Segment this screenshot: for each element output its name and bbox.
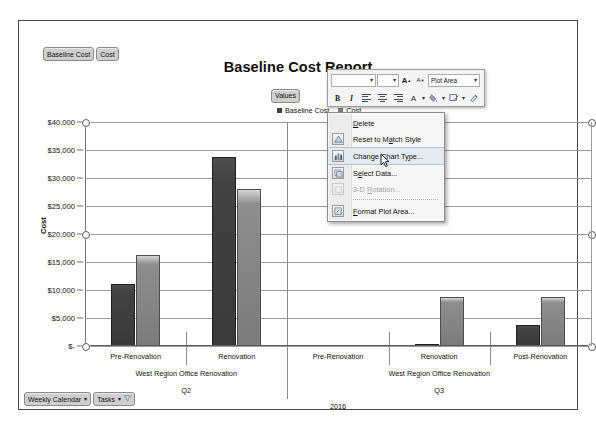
y-axis-tick-label: $30,000 [48, 174, 75, 183]
reset-style-icon [332, 133, 344, 145]
y-axis-tick-label: $- [68, 342, 75, 351]
bar-baseline-cost[interactable] [212, 157, 236, 346]
mini-toolbar-row-1: ▾ ▾ A▲ A▼ Plot Area ▾ [328, 71, 484, 89]
chevron-down-icon: ▾ [84, 394, 87, 405]
chart-type-icon [332, 150, 344, 162]
y-axis-tick-mark [77, 206, 83, 207]
rotation-icon [332, 183, 344, 195]
format-icon [332, 205, 344, 217]
category-axis-divider [287, 346, 288, 399]
bar-cost[interactable] [237, 189, 261, 346]
y-axis-tick-label: $10,000 [48, 286, 75, 295]
font-name-combo[interactable]: ▾ [331, 74, 376, 87]
category-axis-divider [490, 346, 491, 365]
y-axis-title[interactable]: Cost [39, 217, 48, 234]
category-axis-divider [186, 346, 187, 365]
selection-handle[interactable] [588, 343, 596, 351]
bar-cost[interactable] [440, 297, 464, 346]
y-axis-tick-mark [77, 262, 83, 263]
weekly-calendar-pill[interactable]: Weekly Calendar ▾ [24, 392, 91, 406]
bar-baseline-cost[interactable] [516, 325, 540, 346]
context-menu-item-reset-to-match-style[interactable]: Reset to Match Style [328, 131, 444, 147]
selection-handle[interactable] [588, 231, 596, 239]
y-axis-tick-label: $40,000 [48, 118, 75, 127]
chart-title[interactable]: Baseline Cost Report [19, 59, 577, 75]
chart-element-combo[interactable]: Plot Area ▾ [428, 74, 480, 87]
category-axis-level-phase: Pre-RenovationRenovationPre-RenovationRe… [85, 348, 591, 365]
y-axis-tick-label: $15,000 [48, 258, 75, 267]
selection-handle[interactable] [82, 119, 90, 127]
legend-item-baseline-cost[interactable]: Baseline Cost [277, 106, 329, 115]
category-axis-level-quarter: Q2Q3 [85, 382, 591, 399]
y-axis-tick-label: $5,000 [52, 314, 75, 323]
category-label-quarter: Q3 [287, 382, 591, 399]
chevron-down-icon: ▾ [474, 77, 477, 83]
chevron-down-icon: ▾ [370, 77, 373, 83]
context-menu-separator [353, 199, 438, 201]
selection-handle[interactable] [82, 231, 90, 239]
y-axis-tick-label: $25,000 [48, 202, 75, 211]
bar-baseline-cost[interactable] [111, 284, 135, 346]
context-menu-item-3-d-rotation: 3-D Rotation... [328, 181, 444, 197]
category-axis[interactable]: Pre-RenovationRenovationPre-RenovationRe… [85, 346, 591, 408]
font-color-icon[interactable]: A [407, 91, 420, 105]
category-label-phase: Renovation [389, 348, 490, 365]
context-menu-item-label: Delete [353, 119, 374, 128]
category-axis-level-project: West Region Office RenovationWest Region… [85, 365, 591, 382]
bottom-field-row: Weekly Calendar ▾ Tasks ▾ [24, 392, 135, 406]
align-left-icon[interactable] [359, 91, 374, 105]
category-label-project: West Region Office Renovation [85, 365, 287, 382]
category-label-project: West Region Office Renovation [287, 365, 591, 382]
select-data-icon [332, 167, 344, 179]
context-menu-item-format-plot-area[interactable]: Format Plot Area... [328, 203, 444, 219]
chevron-down-icon: ▾ [393, 77, 396, 83]
category-axis-level-year: 2016 [85, 399, 591, 414]
tasks-pill[interactable]: Tasks ▾ [93, 392, 135, 406]
y-axis-tick-mark [77, 290, 83, 291]
y-axis-tick-label: $20,000 [48, 230, 75, 239]
y-axis-tick-mark [77, 178, 83, 179]
context-menu-item-label: Select Data... [353, 169, 397, 178]
y-axis-tick-mark [77, 318, 83, 319]
mini-toolbar-row-2: B I A ▾ ▾ ▾ [328, 89, 484, 107]
context-menu-item-label: 3-D Rotation... [353, 185, 401, 194]
align-center-icon[interactable] [375, 91, 390, 105]
mouse-cursor-icon [380, 153, 391, 168]
category-label-year: 2016 [85, 399, 591, 414]
context-menu-item-label: Format Plot Area... [353, 207, 415, 216]
bar-cost[interactable] [541, 297, 565, 346]
selection-edge [591, 122, 592, 346]
category-label-phase: Pre-Renovation [287, 348, 388, 365]
fill-color-icon[interactable] [427, 91, 440, 105]
filter-funnel-icon [124, 394, 131, 405]
chevron-down-icon[interactable]: ▾ [421, 95, 426, 101]
chevron-down-icon: ▾ [118, 394, 121, 405]
shape-outline-icon[interactable] [447, 91, 460, 105]
values-pill[interactable]: Values [271, 89, 300, 103]
chart-object-frame[interactable]: Baseline Cost Cost Baseline Cost Report … [18, 20, 578, 410]
shrink-font-icon[interactable]: A▼ [414, 73, 427, 87]
grow-font-icon[interactable]: A▲ [400, 73, 413, 87]
bar-cost[interactable] [136, 255, 160, 346]
align-right-icon[interactable] [391, 91, 406, 105]
selection-handle[interactable] [588, 119, 596, 127]
no-icon [332, 117, 344, 129]
selection-handle[interactable] [82, 343, 90, 351]
context-menu-item-label: Reset to Match Style [353, 135, 421, 144]
chevron-down-icon[interactable]: ▾ [461, 95, 466, 101]
y-axis-tick-mark [77, 150, 83, 151]
font-size-combo[interactable]: ▾ [377, 74, 399, 87]
italic-button[interactable]: I [345, 91, 358, 105]
bold-button[interactable]: B [331, 91, 344, 105]
context-menu-item-delete[interactable]: Delete [328, 115, 444, 131]
y-axis-tick-label: $35,000 [48, 146, 75, 155]
legend-key-icon [277, 108, 282, 113]
mini-toolbar[interactable]: ▾ ▾ A▲ A▼ Plot Area ▾ B I [327, 69, 485, 107]
category-label-phase: Renovation [186, 348, 287, 365]
format-painter-icon[interactable] [467, 91, 480, 105]
category-axis-divider [389, 346, 390, 365]
chart-element-value: Plot Area [431, 77, 457, 84]
chevron-down-icon[interactable]: ▾ [441, 95, 446, 101]
category-label-phase: Pre-Renovation [85, 348, 186, 365]
